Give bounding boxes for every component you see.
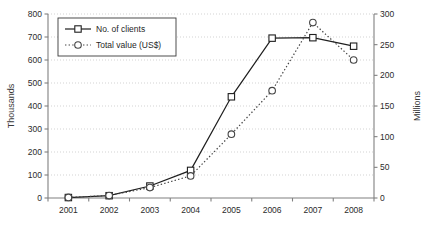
legend-label-0: No. of clients: [96, 24, 145, 34]
x-axis-tick-label: 2004: [181, 205, 200, 215]
x-axis-tick-label: 2006: [263, 205, 282, 215]
right-axis-tick-label: 0: [380, 193, 385, 203]
series-line-square: [68, 38, 353, 198]
right-axis-tick-label: 300: [380, 9, 394, 19]
left-axis-tick-label: 200: [28, 147, 42, 157]
left-axis-title: Thousands: [6, 83, 16, 128]
x-axis-tick-label: 2007: [303, 205, 322, 215]
data-point-circle: [350, 57, 357, 64]
left-axis-tick-label: 500: [28, 78, 42, 88]
legend-label-1: Total value (US$): [96, 40, 161, 50]
data-point-square: [228, 94, 234, 100]
data-point-circle: [228, 131, 235, 138]
data-point-circle: [310, 19, 317, 26]
data-point-square: [350, 43, 356, 49]
x-axis-tick-label: 2005: [222, 205, 241, 215]
data-point-circle: [106, 192, 113, 199]
left-axis-tick-label: 700: [28, 32, 42, 42]
data-point-circle: [65, 194, 72, 201]
right-axis-tick-label: 50: [380, 162, 390, 172]
right-axis-tick-label: 150: [380, 101, 394, 111]
x-axis-tick-label: 2002: [100, 205, 119, 215]
data-point-circle: [187, 173, 194, 180]
x-axis-tick-label: 2003: [140, 205, 159, 215]
x-axis-tick-label: 2001: [59, 205, 78, 215]
right-axis-title: Millions: [412, 91, 422, 122]
left-axis-tick-label: 300: [28, 124, 42, 134]
left-axis-tick-label: 800: [28, 9, 42, 19]
legend-marker-circle: [75, 42, 82, 49]
right-axis-tick-label: 200: [380, 70, 394, 80]
x-axis-tick-label: 2008: [344, 205, 363, 215]
data-point-square: [310, 34, 316, 40]
chart-container: 0100200300400500600700800Thousands050100…: [0, 0, 431, 228]
left-axis-tick-label: 600: [28, 55, 42, 65]
legend-marker-square: [75, 26, 81, 32]
line-chart: 0100200300400500600700800Thousands050100…: [0, 0, 431, 228]
data-point-circle: [269, 87, 276, 94]
left-axis-tick-label: 0: [37, 193, 42, 203]
right-axis-tick-label: 250: [380, 40, 394, 50]
right-axis-tick-label: 100: [380, 132, 394, 142]
left-axis-tick-label: 100: [28, 170, 42, 180]
data-point-square: [269, 35, 275, 41]
data-point-circle: [147, 184, 154, 191]
left-axis-tick-label: 400: [28, 101, 42, 111]
